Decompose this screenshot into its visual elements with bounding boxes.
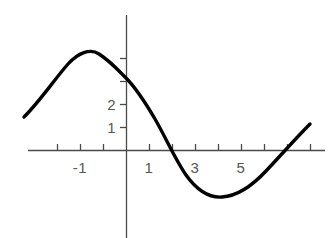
x-tick-label-neg1: -1: [73, 160, 87, 175]
x-tick-label-1: 1: [145, 160, 154, 175]
plot-canvas: [0, 0, 334, 238]
x-tick-label-3: 3: [191, 160, 200, 175]
y-tick-label-2: 2: [107, 97, 116, 112]
figure-container: -1 1 3 5 1 2: [0, 0, 334, 238]
x-tick-label-5: 5: [237, 160, 246, 175]
curve-path: [24, 51, 310, 197]
x-axis-ticks: [58, 144, 311, 151]
y-axis-ticks: [120, 59, 127, 128]
y-tick-label-1: 1: [107, 120, 116, 135]
